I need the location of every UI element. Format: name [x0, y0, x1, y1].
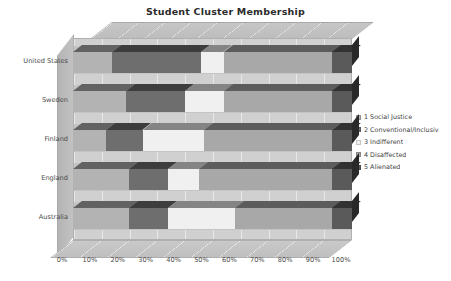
bar-segment-front — [112, 52, 201, 73]
x-axis-tick-label: 80% — [278, 256, 293, 264]
bar-segment — [199, 169, 333, 190]
legend-label: 2 Conventional/Inclusiv — [364, 126, 439, 134]
bar-segment — [168, 208, 235, 229]
bar-segment-front — [332, 169, 352, 190]
bar-segment — [332, 169, 352, 190]
bar-segment-front — [73, 208, 129, 229]
bar-segment — [224, 91, 333, 112]
bar-segment — [73, 91, 126, 112]
bar-segment — [126, 91, 185, 112]
bar-segment-top — [235, 201, 342, 208]
bar-segment-front — [185, 91, 224, 112]
bar-segment — [73, 169, 129, 190]
bar-segment — [73, 208, 129, 229]
bar-row — [73, 52, 352, 73]
legend-item[interactable]: 1 Social Justice — [356, 113, 451, 121]
bar-segment-top — [168, 201, 244, 208]
bar-segment — [185, 91, 224, 112]
bar-segment-front — [73, 91, 126, 112]
bar-segment — [168, 169, 199, 190]
bars-layer — [73, 38, 352, 240]
bar-segment — [332, 130, 352, 151]
bar-segment-front — [201, 52, 223, 73]
bar-segment-top — [224, 45, 342, 52]
bar-segment-front — [332, 91, 352, 112]
y-axis-label: United States — [0, 57, 68, 65]
bar-segment-front — [224, 52, 333, 73]
chart-container: Student Cluster Membership United States… — [0, 0, 451, 281]
x-axis-tick-label: 10% — [83, 256, 98, 264]
y-axis-label: Sweden — [0, 96, 68, 104]
bar-segment-top — [143, 123, 213, 130]
bar-segment-front — [106, 130, 142, 151]
legend-label: 3 Indifferent — [364, 138, 403, 146]
x-axis-tick-label: 90% — [306, 256, 321, 264]
bar-segment — [235, 208, 333, 229]
bar-segment-front — [204, 130, 332, 151]
x-axis-tick-label: 20% — [110, 256, 125, 264]
bar-segment-front — [235, 208, 333, 229]
x-axis-tick-label: 50% — [194, 256, 209, 264]
bar-segment-top — [73, 162, 138, 169]
bar-segment-front — [168, 208, 235, 229]
bar-row — [73, 91, 352, 112]
bar-segment — [332, 208, 352, 229]
bar-segment-top — [73, 201, 138, 208]
bar-segment — [204, 130, 332, 151]
bar-row — [73, 169, 352, 190]
bar-segment — [332, 91, 352, 112]
chart-title: Student Cluster Membership — [0, 6, 451, 17]
bar-segment — [73, 130, 106, 151]
bar-segment-front — [224, 91, 333, 112]
bar-segment-front — [143, 130, 204, 151]
bar-segment-front — [332, 130, 352, 151]
bar-segment-front — [129, 208, 168, 229]
chart-legend: 1 Social Justice2 Conventional/Inclusiv3… — [356, 113, 451, 176]
legend-swatch-icon — [356, 140, 361, 145]
bar-segment-front — [199, 169, 333, 190]
x-axis-tick-label: 60% — [222, 256, 237, 264]
bar-segment-top — [204, 123, 341, 130]
bar-segment-front — [332, 208, 352, 229]
bar-segment-front — [73, 130, 106, 151]
legend-label: 4 Disaffected — [364, 151, 406, 159]
y-axis-label: Australia — [0, 213, 68, 221]
y-axis-label: England — [0, 174, 68, 182]
bar-segment — [129, 208, 168, 229]
bar-segment-top — [199, 162, 342, 169]
bar-segment-top — [112, 45, 210, 52]
bar-segment — [129, 169, 168, 190]
bar-segment-front — [332, 52, 352, 73]
x-axis-tick-label: 30% — [138, 256, 153, 264]
bar-segment-front — [73, 52, 112, 73]
bar-segment — [224, 52, 333, 73]
bar-segment — [106, 130, 142, 151]
bar-segment-front — [126, 91, 185, 112]
bar-segment — [201, 52, 223, 73]
bar-segment — [332, 52, 352, 73]
bar-segment — [143, 130, 204, 151]
bar-segment-front — [129, 169, 168, 190]
legend-item[interactable]: 5 Alienated — [356, 163, 451, 171]
legend-item[interactable]: 4 Disaffected — [356, 151, 451, 159]
legend-label: 1 Social Justice — [364, 113, 412, 121]
bar-row — [73, 208, 352, 229]
bar-segment-top — [126, 84, 194, 91]
bar-segment — [73, 52, 112, 73]
x-axis-tick-label: 0% — [57, 256, 67, 264]
x-axis-tick-label: 40% — [166, 256, 181, 264]
bar-segment-front — [168, 169, 199, 190]
legend-label: 5 Alienated — [364, 163, 400, 171]
bar-segment-top — [224, 84, 342, 91]
y-axis-label: Finland — [0, 135, 68, 143]
bar-row — [73, 130, 352, 151]
legend-item[interactable]: 2 Conventional/Inclusiv — [356, 126, 451, 134]
x-axis-tick-label: 100% — [332, 256, 351, 264]
x-axis-labels: 0%10%20%30%40%50%60%70%80%90%100% — [0, 256, 451, 272]
legend-item[interactable]: 3 Indifferent — [356, 138, 451, 146]
bar-segment-front — [73, 169, 129, 190]
x-axis-tick-label: 70% — [250, 256, 265, 264]
bar-segment — [112, 52, 201, 73]
